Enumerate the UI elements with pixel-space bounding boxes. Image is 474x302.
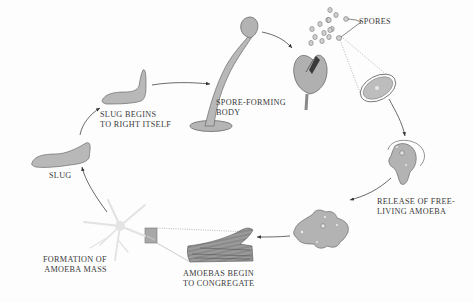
label-slug: SLUG bbox=[49, 171, 72, 181]
magnification-box bbox=[145, 228, 157, 243]
free-living-amoeba bbox=[294, 210, 349, 248]
arrow-to-release bbox=[389, 99, 405, 136]
arrow-to-congregate bbox=[257, 236, 290, 237]
slug bbox=[32, 143, 90, 168]
releasing-amoeba bbox=[388, 140, 425, 184]
enlarged-spore bbox=[356, 68, 401, 107]
label-spores: SPORES bbox=[359, 17, 391, 27]
arrow-to-slug bbox=[82, 167, 107, 212]
spore-capsule bbox=[294, 55, 327, 110]
label-slug-rights: SLUG BEGINS TO RIGHT ITSELF bbox=[100, 110, 171, 129]
label-amoeba-mass: FORMATION OF AMOEBA MASS bbox=[43, 255, 107, 274]
slug-righting bbox=[102, 70, 146, 104]
label-spore-forming-body: SPORE-FORMING BODY bbox=[216, 98, 286, 117]
label-release: RELEASE OF FREE- LIVING AMOEBA bbox=[377, 197, 455, 216]
arrow-to-spore-body bbox=[152, 83, 210, 85]
label-congregate: AMOEBAS BEGIN TO CONGREGATE bbox=[183, 269, 254, 288]
slime-mold-life-cycle-diagram: SPORE-FORMING BODY SPORES RELEASE OF FRE… bbox=[0, 0, 474, 302]
congregating-amoebas bbox=[187, 228, 253, 262]
arrow-to-capsule bbox=[262, 32, 292, 48]
spores bbox=[309, 7, 349, 45]
arrow-to-slug-rising bbox=[80, 108, 100, 135]
amoeba-mass bbox=[84, 200, 145, 260]
